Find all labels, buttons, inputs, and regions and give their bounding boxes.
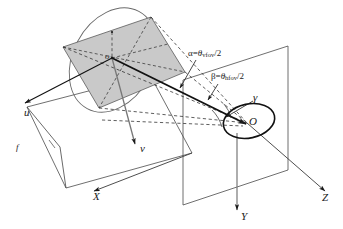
z-axis (247, 123, 325, 191)
x-axis (94, 153, 192, 191)
alpha-leader (180, 60, 196, 88)
x-axis-label: X (93, 191, 100, 202)
z-axis-label: Z (322, 192, 328, 203)
image-plane-top-point (111, 31, 113, 33)
y-axis-label: Y (241, 211, 247, 222)
image-plane (63, 17, 185, 108)
gamma-label: γ (253, 92, 257, 103)
camera-projection-diagram: u v X Y Z f o O γ α=θvfov/2 β=θhfov/2 (0, 0, 343, 229)
image-origin-point (111, 57, 113, 59)
beta-lead: β= (211, 71, 221, 81)
alpha-tail: /2 (214, 48, 221, 58)
camera-origin-label: O (249, 116, 257, 127)
diagram-canvas (0, 0, 343, 229)
alpha-subscript: vfov (202, 51, 214, 58)
ground-construction-line (102, 120, 243, 126)
beta-subscript: hfov (225, 74, 237, 81)
alpha-lead: α= (188, 48, 198, 58)
v-axis-label: v (140, 143, 145, 154)
alpha-equation: α=θvfov/2 (188, 49, 221, 59)
beta-tail: /2 (237, 71, 244, 81)
focal-length-label: f (16, 143, 19, 152)
beta-equation: β=θhfov/2 (211, 72, 244, 82)
image-origin-label: o (105, 52, 110, 61)
u-axis-label: u (24, 107, 30, 118)
